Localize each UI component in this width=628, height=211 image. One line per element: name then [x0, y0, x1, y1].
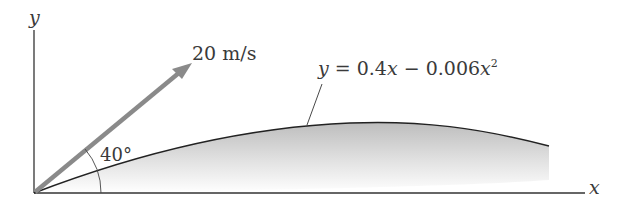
equation-x2: x	[480, 57, 491, 79]
equation-mid: − 0.006	[398, 57, 480, 79]
x-axis-label: x	[589, 178, 600, 197]
equation-leader-line	[307, 84, 322, 125]
equation-eq: = 0.4	[329, 57, 387, 79]
equation-x1: x	[387, 57, 398, 79]
angle-label: 40°	[100, 146, 132, 164]
diagram-canvas	[0, 0, 628, 211]
projectile-diagram: y x 20 m/s 40° y = 0.4x − 0.006x2	[0, 0, 628, 211]
y-axis-label: y	[29, 8, 40, 27]
trajectory-equation: y = 0.4x − 0.006x2	[318, 58, 498, 78]
equation-lhs: y	[318, 57, 329, 79]
equation-exponent: 2	[491, 57, 498, 70]
velocity-label: 20 m/s	[192, 44, 256, 63]
